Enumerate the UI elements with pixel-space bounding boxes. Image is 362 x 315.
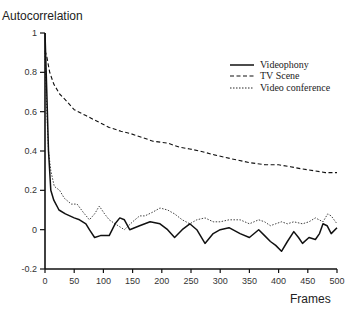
y-tick-label: 0.8 <box>24 67 37 77</box>
x-tick-label: 200 <box>154 276 169 286</box>
x-tick-label: 300 <box>213 276 228 286</box>
x-tick-label: 50 <box>69 276 79 286</box>
y-tick-label: 1 <box>32 28 37 38</box>
x-tick-label: 250 <box>183 276 198 286</box>
y-tick-label: 0 <box>32 225 37 235</box>
legend-label-tv-scene: TV Scene <box>260 70 300 81</box>
x-tick-label: 150 <box>125 276 140 286</box>
legend: Videophony TV Scene Video conference <box>230 59 331 93</box>
y-axis-label: Autocorrelation <box>2 9 83 23</box>
x-tick-label: 400 <box>271 276 286 286</box>
autocorrelation-chart: Autocorrelation Frames -0.200.20.40.60.8… <box>0 0 362 315</box>
y-tick-label: 0.4 <box>24 146 37 156</box>
y-tick-label: 0.6 <box>24 107 37 117</box>
legend-label-video-conference: Video conference <box>260 82 331 93</box>
x-tick-label: 0 <box>42 276 47 286</box>
y-tick-label: -0.2 <box>21 264 37 274</box>
y-tick-label: 0.2 <box>24 185 37 195</box>
x-axis-label: Frames <box>290 292 331 306</box>
y-ticks: -0.200.20.40.60.81 <box>21 28 45 274</box>
legend-label-videophony: Videophony <box>260 59 309 70</box>
x-tick-label: 450 <box>300 276 315 286</box>
x-tick-label: 350 <box>242 276 257 286</box>
x-tick-label: 500 <box>329 276 344 286</box>
x-tick-label: 100 <box>96 276 111 286</box>
x-ticks: 050100150200250300350400450500 <box>42 269 344 286</box>
